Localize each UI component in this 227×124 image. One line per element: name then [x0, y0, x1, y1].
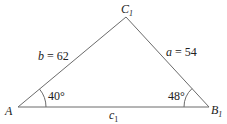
- angle-label-A: 40°: [48, 89, 65, 103]
- angle-arc-A: [40, 89, 47, 107]
- side-b: [18, 17, 126, 107]
- angle-label-B: 48°: [168, 89, 185, 103]
- triangle-diagram: A B1 C1 b = 62 a = 54 c1 40° 48°: [0, 0, 227, 124]
- vertex-label-A: A: [4, 104, 13, 118]
- side-label-c1: c1: [109, 108, 118, 124]
- vertex-label-C1: C1: [121, 2, 133, 18]
- vertex-label-B1: B1: [211, 103, 222, 119]
- side-label-b: b = 62: [38, 49, 69, 63]
- angle-arc-B: [184, 89, 192, 107]
- side-label-a: a = 54: [166, 45, 197, 59]
